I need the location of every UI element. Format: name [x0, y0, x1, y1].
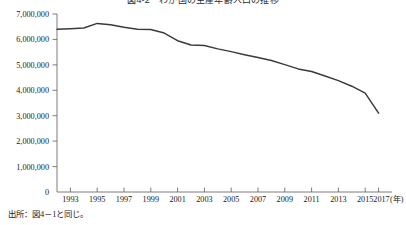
x-tick-label: 2017: [373, 195, 389, 204]
y-tick-label: 5,000,000: [16, 61, 49, 70]
x-tick-label: 1997: [116, 195, 132, 204]
x-tick-label: 2005: [223, 195, 239, 204]
x-axis-tick-labels: 1993 1995 1997 1999 2001 2003 2005 2007 …: [62, 194, 404, 204]
figure-container: 図4-2 わが国の生産年齢人口の推移 7,000,000 6,000,000 5…: [0, 0, 406, 225]
x-tick-label: 2013: [330, 195, 346, 204]
y-tick-label: 6,000,000: [16, 35, 49, 44]
x-tick-label: 2003: [196, 195, 212, 204]
source-note: 出所：図4－1と同じ。: [8, 207, 88, 219]
line-chart: 7,000,000 6,000,000 5,000,000 4,000,000 …: [0, 0, 406, 205]
y-tick-label: 7,000,000: [16, 10, 49, 19]
y-axis-tick-labels: 7,000,000 6,000,000 5,000,000 4,000,000 …: [16, 10, 49, 197]
x-tick-label: 2009: [277, 195, 293, 204]
x-tick-label: 1995: [89, 195, 105, 204]
x-tick-label: 2015: [357, 195, 373, 204]
x-tick-label: 1993: [62, 195, 78, 204]
x-axis-unit-label: (年): [390, 194, 404, 204]
x-tick-label: 1999: [143, 195, 159, 204]
y-tick-label: 2,000,000: [16, 137, 49, 146]
y-tick-label: 4,000,000: [16, 86, 49, 95]
x-axis-ticks: [70, 188, 378, 193]
x-tick-label: 2007: [250, 195, 266, 204]
y-axis-ticks: [53, 14, 58, 167]
x-tick-label: 2011: [304, 195, 320, 204]
y-tick-label: 1,000,000: [16, 163, 49, 172]
y-tick-label: 0: [45, 188, 49, 197]
y-tick-label: 3,000,000: [16, 112, 49, 121]
data-series-line: [57, 23, 379, 113]
x-tick-label: 2001: [169, 195, 185, 204]
